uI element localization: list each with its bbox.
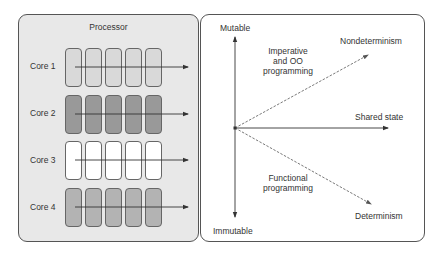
axis-label-mutable: Mutable [220, 23, 250, 33]
core-1-label: Core 1 [30, 61, 56, 71]
core-4-label: Core 4 [30, 202, 56, 212]
core-2-label: Core 2 [30, 108, 56, 118]
region-label-functional-line-2: programming [248, 183, 328, 193]
region-label-imperative-line-3: programming [248, 66, 328, 76]
region-label-functional: Functional programming [248, 173, 328, 193]
label-nondeterminism: Nondeterminism [340, 36, 402, 46]
region-label-imperative-line-1: Imperative [248, 46, 328, 56]
origin-point [234, 127, 237, 130]
region-label-imperative: Imperative and OO programming [248, 46, 328, 76]
processor-title: Processor [18, 22, 199, 32]
region-label-functional-line-1: Functional [248, 173, 328, 183]
core-3-label: Core 3 [30, 155, 56, 165]
label-determinism: Determinism [355, 211, 403, 221]
region-label-imperative-line-2: and OO [248, 56, 328, 66]
axis-label-shared-state: Shared state [355, 112, 403, 122]
axis-label-immutable: Immutable [213, 226, 253, 236]
